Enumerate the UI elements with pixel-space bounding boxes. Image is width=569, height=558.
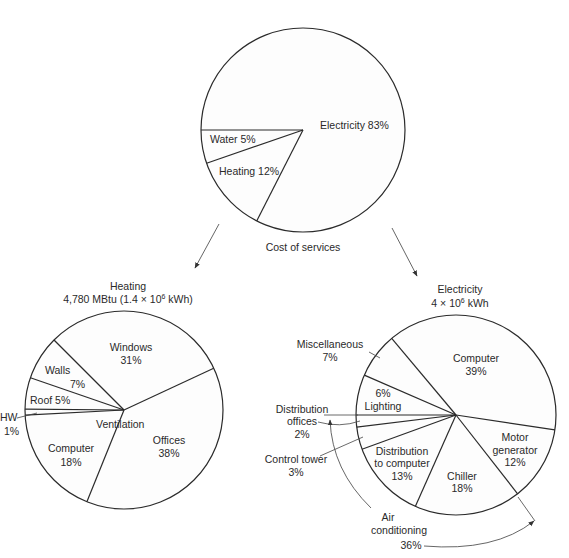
pie-chart-figure: Electricity 83% Water 5% Heating 12% Cos… [0, 0, 569, 558]
air-conditioning-arrow-right [424, 521, 534, 547]
heating-label: Heating 12% [219, 165, 279, 177]
miscellaneous-label: Miscellaneous [297, 338, 364, 350]
arrow-to-heating [195, 224, 219, 268]
walls-pct: 7% [70, 378, 85, 390]
air-conditioning-label-2: conditioning [371, 524, 427, 536]
lighting-label: Lighting [365, 400, 402, 412]
offices-pct: 38% [158, 447, 179, 459]
distribution-offices-leader-line [318, 421, 360, 425]
arrow-to-electricity [392, 228, 417, 276]
computer-label: Computer [48, 442, 95, 454]
control-tower-label: Control tower [265, 453, 328, 465]
air-conditioning-label-1: Air [382, 511, 395, 523]
distribution-offices-label-1: Distribution [276, 403, 329, 415]
air-conditioning-pct: 36% [400, 539, 421, 551]
walls-label: Walls [45, 364, 70, 376]
water-label: Water 5% [210, 133, 256, 145]
hw-pct: 1% [4, 425, 19, 437]
distribution-to-computer-pct: 13% [391, 470, 412, 482]
roof-label: Roof 5% [30, 394, 70, 406]
hw-label: HW [0, 411, 18, 423]
electricity-title: Electricity [438, 283, 484, 295]
heating-subtitle: 4,780 MBtu (1.4 × 106 kWh) [63, 293, 193, 305]
miscellaneous-pct: 7% [322, 351, 337, 363]
motor-generator-pct: 12% [504, 456, 525, 468]
computer-pct: 18% [60, 456, 81, 468]
motor-generator-label-2: generator [493, 444, 538, 456]
windows-pct: 31% [120, 354, 141, 366]
heating-title: Heating [110, 280, 146, 292]
distribution-offices-pct: 2% [294, 428, 309, 440]
distribution-to-computer-label-2: to computer [374, 457, 430, 469]
distribution-offices-label-2: offices [287, 415, 317, 427]
cost-of-services-pie: Electricity 83% Water 5% Heating 12% Cos… [201, 28, 405, 253]
heating-pie: Heating 4,780 MBtu (1.4 × 106 kWh) Windo… [0, 280, 223, 509]
chiller-pct: 18% [451, 482, 472, 494]
electricity-label: Electricity 83% [320, 119, 389, 131]
control-tower-pct: 3% [288, 466, 303, 478]
electricity-pie: Electricity 4 × 106 kWh Miscellaneous 7%… [265, 283, 556, 551]
chiller-label: Chiller [447, 470, 477, 482]
ventilation-label: Ventilation [96, 418, 145, 430]
offices-label: Offices [153, 434, 185, 446]
computer-pct: 39% [465, 365, 486, 377]
control-tower-leader-line [320, 437, 363, 456]
motor-generator-label-1: Motor [502, 431, 529, 443]
cost-of-services-caption: Cost of services [266, 241, 341, 253]
windows-label: Windows [110, 341, 153, 353]
distribution-to-computer-label-1: Distribution [376, 445, 429, 457]
lighting-pct: 6% [375, 387, 390, 399]
computer-label: Computer [453, 352, 500, 364]
chiller-boundary-extension [518, 497, 535, 521]
electricity-subtitle: 4 × 106 kWh [431, 297, 488, 309]
